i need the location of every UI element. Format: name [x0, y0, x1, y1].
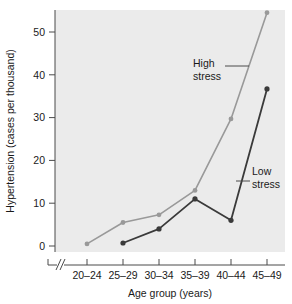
high-stress-label-line2: stress [193, 70, 221, 82]
y-tick-label-40: 40 [33, 69, 45, 81]
x-tick-label-45-49: 45–49 [252, 269, 281, 281]
y-tick-label-50: 50 [33, 26, 45, 38]
x-tick-label-30-34: 30–34 [144, 269, 173, 281]
y-tick-label-20: 20 [33, 154, 45, 166]
y-axis-ticks [49, 32, 55, 246]
y-tick-label-30: 30 [33, 111, 45, 123]
y-axis-title: Hypertension (cases per thousand) [4, 49, 16, 212]
high-stress-label-line1: High [193, 57, 215, 69]
x-axis-ticks [87, 259, 267, 265]
low-stress-label-line2: stress [252, 178, 280, 190]
hypertension-line-chart: 0 10 20 30 40 50 Hypertension (cases per… [0, 0, 292, 304]
x-axis-title: Age group (years) [128, 287, 212, 299]
x-tick-label-20-24: 20–24 [72, 269, 101, 281]
x-tick-label-35-39: 35–39 [180, 269, 209, 281]
x-tick-label-25-29: 25–29 [108, 269, 137, 281]
x-axis-break-icon [56, 259, 65, 270]
y-tick-label-10: 10 [33, 197, 45, 209]
low-stress-label-line1: Low [252, 165, 272, 177]
plot-area-background [55, 10, 285, 252]
x-tick-label-40-44: 40–44 [216, 269, 245, 281]
y-tick-label-0: 0 [39, 240, 45, 252]
chart-figure: 0 10 20 30 40 50 Hypertension (cases per… [0, 0, 292, 304]
